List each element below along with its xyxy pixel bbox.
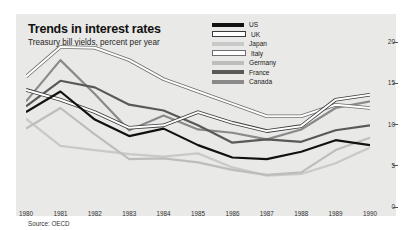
x-tick-label: 1989 <box>329 210 343 217</box>
x-tick-label: 1981 <box>53 210 67 217</box>
legend-item-uk[interactable]: UK <box>212 30 332 39</box>
x-tick-label: 1980 <box>19 210 33 217</box>
series-line-japan <box>26 119 370 176</box>
y-tick-label: 20 <box>372 38 396 45</box>
y-tick-label: 15 <box>372 79 396 86</box>
y-axis: 05101520 <box>370 42 396 207</box>
x-axis: 1980198119821983198419851986198719881989… <box>26 210 370 222</box>
y-tick-label: 10 <box>372 121 396 128</box>
y-tick-label: 5 <box>372 162 396 169</box>
x-tick-label: 1988 <box>294 210 308 217</box>
x-tick-label: 1985 <box>191 210 205 217</box>
series-line-canada <box>26 60 370 139</box>
x-tick-label: 1986 <box>225 210 239 217</box>
x-tick-label: 1987 <box>260 210 274 217</box>
x-tick-label: 1984 <box>157 210 171 217</box>
legend-swatch-icon <box>212 23 244 27</box>
legend-item-us[interactable]: US <box>212 20 332 29</box>
legend-label: UK <box>251 30 260 39</box>
legend-label: US <box>249 20 258 29</box>
series-lines <box>26 42 370 207</box>
x-tick-label: 1983 <box>122 210 136 217</box>
y-tick-label: 0 <box>372 203 396 210</box>
x-tick-label: 1990 <box>363 210 377 217</box>
chart-title: Trends in interest rates <box>28 22 161 36</box>
plot-area <box>26 42 370 207</box>
chart-figure: Trends in interest rates Treasury bill y… <box>16 14 396 216</box>
x-tick-label: 1982 <box>88 210 102 217</box>
legend-swatch-icon <box>212 31 246 37</box>
source-note: Source: OECD <box>28 220 70 227</box>
